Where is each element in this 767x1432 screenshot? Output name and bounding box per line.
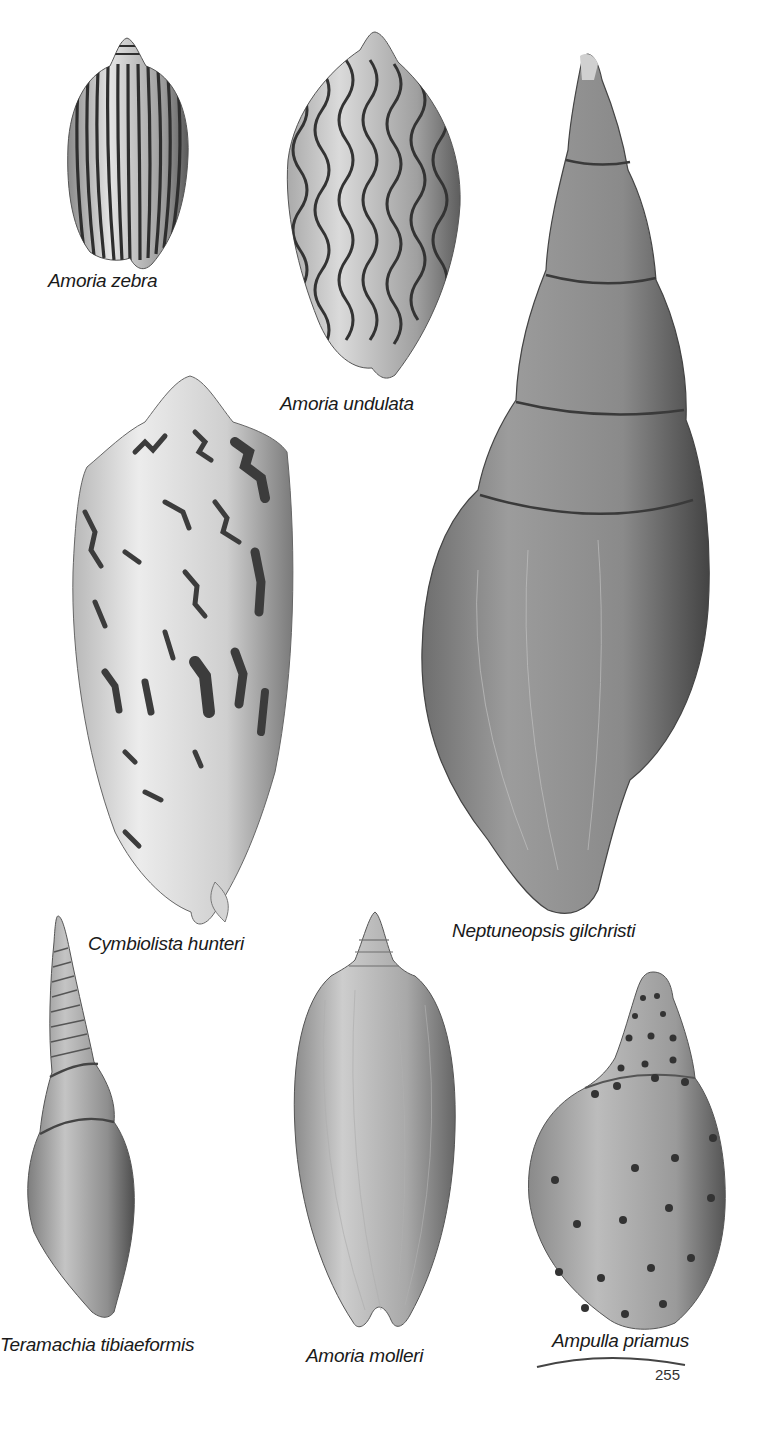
neptuneopsis-gilchristi-illustration bbox=[418, 50, 713, 920]
caption-amoria-zebra: Amoria zebra bbox=[48, 270, 157, 292]
cymbiolista-hunteri-illustration bbox=[65, 372, 305, 932]
teramachia-tibiaeformis-illustration bbox=[18, 912, 158, 1322]
caption-ampulla-priamus: Ampulla priamus bbox=[552, 1330, 689, 1352]
caption-neptuneopsis-gilchristi: Neptuneopsis gilchristi bbox=[452, 920, 635, 942]
caption-amoria-molleri: Amoria molleri bbox=[306, 1345, 423, 1367]
shell-plate: Amoria zebra Amoria undulata bbox=[0, 0, 767, 1432]
amoria-zebra-illustration bbox=[62, 36, 192, 276]
page-number: 255 bbox=[655, 1366, 680, 1383]
ampulla-priamus-illustration bbox=[525, 968, 730, 1333]
amoria-molleri-illustration bbox=[285, 910, 460, 1335]
caption-teramachia-tibiaeformis: Teramachia tibiaeformis bbox=[0, 1334, 194, 1356]
